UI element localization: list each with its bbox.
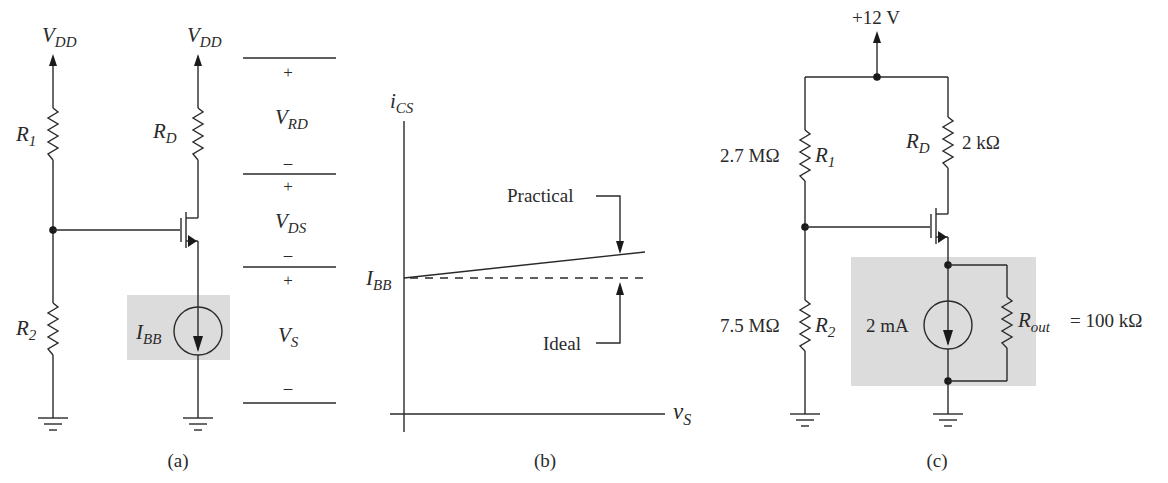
- ideal-leader: [596, 293, 620, 343]
- vds-plus: +: [283, 177, 293, 196]
- r1-label: R1: [15, 122, 36, 149]
- resistor-r1-icon: [800, 130, 810, 181]
- resistor-rd-icon: [943, 117, 953, 168]
- resistor-r2-icon: [800, 300, 810, 351]
- vs-minus: –: [283, 378, 293, 397]
- vrd-label: VRD: [275, 105, 308, 132]
- ground-icon: [933, 414, 963, 426]
- rd-label: RD: [905, 129, 930, 156]
- rout-value: = 100 kΩ: [1070, 310, 1142, 331]
- rd-label: RD: [152, 119, 177, 146]
- caption-b: (b): [534, 450, 556, 472]
- vrd-minus: –: [283, 153, 293, 172]
- ground-icon: [38, 418, 68, 430]
- arrow-down-icon: [616, 241, 624, 254]
- vs-label: VS: [278, 323, 299, 350]
- r2-label: R2: [814, 313, 836, 340]
- y-axis-label: iCS: [390, 89, 414, 116]
- vs-plus: +: [283, 271, 293, 290]
- mosfet-icon: [181, 160, 198, 306]
- vds-label: VDS: [275, 209, 307, 236]
- supply-label: +12 V: [852, 7, 900, 28]
- arrow-up-icon: [873, 31, 881, 43]
- r1-value: 2.7 MΩ: [720, 145, 780, 166]
- resistor-rd-icon: [193, 108, 203, 160]
- ground-icon: [183, 418, 213, 430]
- panel-c: +12 V 2.7 MΩ R1 7.5 MΩ R2 RD 2 kΩ: [720, 7, 1142, 472]
- practical-label: Practical: [507, 185, 573, 206]
- caption-c: (c): [926, 450, 947, 472]
- vdd-left-label: VDD: [42, 23, 77, 50]
- arrow-up-icon: [616, 282, 624, 295]
- practical-leader: [596, 196, 620, 243]
- ideal-label: Ideal: [543, 333, 581, 354]
- source-value: 2 mA: [866, 315, 909, 336]
- vds-minus: –: [283, 245, 293, 264]
- r1-label: R1: [814, 143, 835, 170]
- x-axis-label: vS: [673, 399, 691, 428]
- ibb-axis-label: IBB: [365, 266, 391, 293]
- panel-b: iCS vS IBB Practical Ideal (b): [365, 89, 691, 472]
- vdd-right-label: VDD: [187, 23, 222, 50]
- arrow-up-icon: [49, 54, 57, 66]
- caption-a: (a): [167, 450, 188, 472]
- circuit-figure: VDD R1 R2 VDD RD: [0, 0, 1168, 483]
- vrd-plus: +: [283, 63, 293, 82]
- r2-value: 7.5 MΩ: [720, 315, 780, 336]
- practical-curve: [404, 252, 645, 278]
- resistor-r2-icon: [48, 303, 58, 355]
- resistor-r1-icon: [48, 108, 58, 160]
- ground-icon: [790, 414, 820, 426]
- r2-label: R2: [15, 316, 37, 343]
- supply-node-dot: [873, 73, 881, 81]
- arrow-up-icon: [194, 54, 202, 66]
- panel-a: VDD R1 R2 VDD RD: [15, 23, 336, 472]
- rd-value: 2 kΩ: [962, 132, 1000, 153]
